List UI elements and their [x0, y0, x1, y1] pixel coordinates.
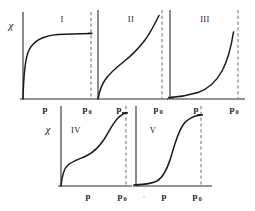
- panel-4-x-axis-label: p: [85, 191, 90, 201]
- svg-text:0: 0: [88, 108, 91, 115]
- panel-4-y-axis-label: χ: [45, 123, 52, 135]
- panel-1-curve: [23, 33, 91, 99]
- svg-text:0: 0: [123, 195, 126, 202]
- panel-4-curve: [61, 113, 126, 186]
- panel-2-x-axis-label: p: [116, 104, 121, 114]
- panel-5-p0-label: p 0: [192, 191, 201, 202]
- svg-text:p: p: [153, 104, 158, 114]
- panel-3-p0-label: p 0: [229, 104, 238, 115]
- panel-1-y-axis-label: χ: [8, 19, 15, 31]
- panel-5-x-axis-label: p: [161, 191, 166, 201]
- panel-1-p0-label: p 0: [82, 104, 91, 115]
- svg-text:p: p: [117, 191, 122, 201]
- isotherm-svg: I χ p p 0 II p p 0: [0, 0, 255, 211]
- panel-1: I χ p p 0: [8, 12, 95, 115]
- panel-3-x-axis-label: p: [193, 104, 198, 114]
- panel-5: V p p 0 ᵒ: [133, 106, 212, 202]
- stray-mark: ᵒ: [143, 195, 145, 200]
- svg-text:0: 0: [235, 108, 238, 115]
- panel-2-numeral: II: [128, 14, 134, 24]
- panel-3: III p p 0: [167, 10, 245, 115]
- svg-text:p: p: [82, 104, 87, 114]
- panel-1-numeral: I: [60, 14, 63, 24]
- svg-text:0: 0: [198, 195, 201, 202]
- svg-text:p: p: [229, 104, 234, 114]
- panel-4-numeral: IV: [71, 125, 81, 135]
- panel-2-p0-label: p 0: [153, 104, 162, 115]
- panel-5-numeral: V: [150, 125, 157, 135]
- isotherm-figure: I χ p p 0 II p p 0: [0, 0, 255, 211]
- panel-2-curve: [98, 16, 159, 100]
- panel-1-x-axis-label: p: [42, 104, 47, 114]
- panel-2: II p p 0: [95, 10, 168, 115]
- panel-5-curve: [136, 115, 201, 185]
- panel-4: IV χ p p 0: [45, 106, 132, 202]
- svg-text:p: p: [192, 191, 197, 201]
- panel-3-numeral: III: [200, 14, 210, 24]
- svg-text:0: 0: [159, 108, 162, 115]
- panel-4-p0-label: p 0: [117, 191, 126, 202]
- panel-3-curve: [170, 32, 234, 98]
